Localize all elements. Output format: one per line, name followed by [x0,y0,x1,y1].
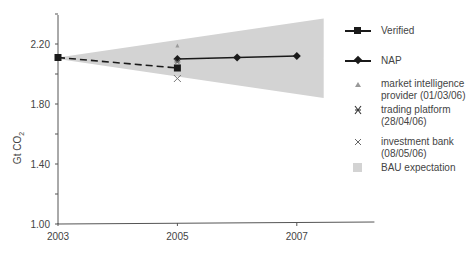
square-line-icon [345,25,373,37]
verified-marker [174,65,181,72]
y-axis-label: Gt CO2 [12,132,25,164]
triangle-icon [345,78,373,90]
y-tick-label: 1.80 [31,99,51,110]
legend-label: investment bank(08/05/06) [381,136,454,160]
x-icon [345,136,373,148]
verified-marker [55,54,62,61]
legend-label: trading platform(28/04/06) [381,104,450,128]
legend-item-market-intelligence: market intelligenceprovider (01/03/06) [345,78,466,102]
y-tick-label: 2.20 [31,39,51,50]
legend-label: market intelligenceprovider (01/03/06) [381,78,466,102]
legend-item-investment-bank: investment bank(08/05/06) [345,136,454,160]
y-tick-label: 1.40 [31,159,51,170]
y-tick-label: 1.00 [31,219,51,230]
emissions-chart: 1.001.401.802.20200320052007 Gt CO2 [0,0,467,257]
x-tick-label: 2005 [166,231,189,242]
asterisk-icon [345,104,373,116]
x-tick-label: 2003 [47,231,70,242]
legend-item-bau: BAU expectation [345,162,456,174]
legend-label: Verified [381,25,414,37]
legend-item-trading-platform: trading platform(28/04/06) [345,104,450,128]
diamond-line-icon [345,55,373,67]
legend-label: NAP [381,55,402,67]
legend-label: BAU expectation [381,162,456,174]
legend-item-verified: Verified [345,25,414,37]
legend-item-nap: NAP [345,55,402,67]
x-tick-label: 2007 [286,231,309,242]
gray-square-icon [345,162,373,174]
